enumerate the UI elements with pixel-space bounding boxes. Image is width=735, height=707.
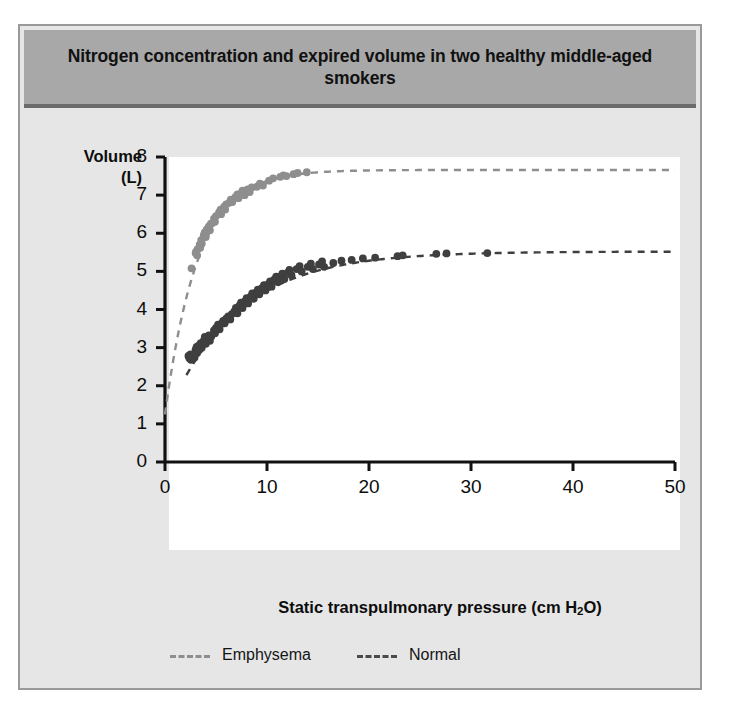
data-point xyxy=(483,249,491,257)
data-point xyxy=(303,168,311,176)
x-tick-label: 30 xyxy=(451,476,491,498)
x-tick-label: 50 xyxy=(655,476,695,498)
data-point xyxy=(269,174,277,182)
series-points-normal xyxy=(185,249,492,364)
data-point xyxy=(348,256,356,264)
y-tick-label: 8 xyxy=(121,145,147,167)
legend-dash-icon-normal xyxy=(357,655,397,658)
fit-curve-emphysema xyxy=(165,170,675,414)
series-points-emphysema xyxy=(188,168,311,272)
y-tick-label: 7 xyxy=(121,183,147,205)
data-point xyxy=(399,251,407,259)
data-point xyxy=(432,250,440,258)
y-tick-label: 3 xyxy=(121,336,147,358)
fit-curve-group xyxy=(165,170,675,414)
y-tick-label: 1 xyxy=(121,412,147,434)
fit-curve-normal xyxy=(186,252,675,375)
chart-svg xyxy=(20,26,704,692)
legend-label-emphysema: Emphysema xyxy=(222,646,311,664)
legend-dash-icon-emphysema xyxy=(170,655,210,658)
data-point xyxy=(259,182,267,190)
y-tick-label: 6 xyxy=(121,221,147,243)
data-point xyxy=(443,250,451,258)
data-point xyxy=(294,169,302,177)
data-point xyxy=(282,172,290,180)
x-tick-label: 0 xyxy=(145,476,185,498)
y-tick-label: 0 xyxy=(121,450,147,472)
y-tick-label: 2 xyxy=(121,374,147,396)
data-point xyxy=(359,255,367,263)
data-point xyxy=(371,254,379,262)
x-tick-label: 10 xyxy=(247,476,287,498)
y-tick-label: 4 xyxy=(121,298,147,320)
data-points-group xyxy=(185,168,492,363)
data-point xyxy=(338,257,346,265)
data-point xyxy=(202,233,210,241)
data-point xyxy=(329,259,337,267)
legend-label-normal: Normal xyxy=(409,646,461,664)
x-tick-label: 20 xyxy=(349,476,389,498)
legend-entry-emphysema: Emphysema xyxy=(170,646,311,664)
x-axis-title-pre: Static transpulmonary pressure (cm H xyxy=(278,598,577,616)
data-point xyxy=(288,271,296,279)
data-point xyxy=(188,264,196,272)
data-point xyxy=(320,263,328,271)
figure-panel: Nitrogen concentration and expired volum… xyxy=(18,24,702,690)
chart-legend: Emphysema Normal xyxy=(170,646,590,664)
x-axis-title: Static transpulmonary pressure (cm H2O) xyxy=(190,598,690,617)
y-tick-label: 5 xyxy=(121,259,147,281)
x-tick-label: 40 xyxy=(553,476,593,498)
x-axis-title-post: O) xyxy=(584,598,602,616)
legend-entry-normal: Normal xyxy=(357,646,461,664)
